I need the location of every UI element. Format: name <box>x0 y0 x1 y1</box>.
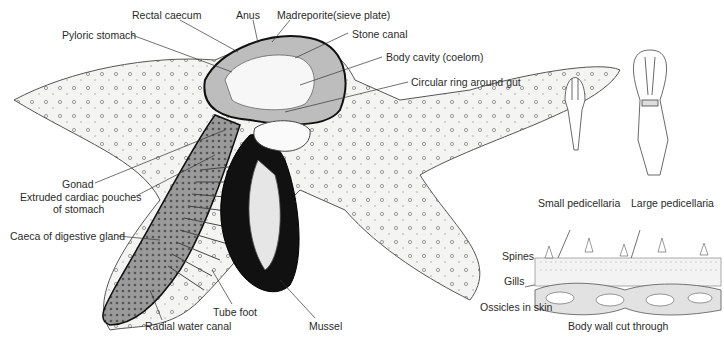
label-cardiac-pouches-line1: Extruded cardiac pouches <box>20 191 141 203</box>
label-gills: Gills <box>504 275 524 287</box>
label-large-pedicellaria: Large pedicellaria <box>631 197 714 209</box>
starfish-diagram <box>0 0 724 339</box>
label-anus: Anus <box>236 9 260 21</box>
label-caeca: Caeca of digestive gland <box>10 230 125 242</box>
label-pyloric-stomach: Pyloric stomach <box>62 29 136 41</box>
label-small-pedicellaria: Small pedicellaria <box>538 197 620 209</box>
small-pedicellaria <box>565 78 585 151</box>
label-madreporite: Madreporite(sieve plate) <box>277 9 390 21</box>
label-rectal-caecum: Rectal caecum <box>132 9 201 21</box>
label-stone-canal: Stone canal <box>352 28 407 40</box>
label-body-cavity: Body cavity (coelom) <box>386 51 483 63</box>
label-gonad: Gonad <box>62 178 94 190</box>
label-tube-foot: Tube foot <box>213 306 257 318</box>
label-cardiac-pouches-line2: of stomach <box>53 203 104 215</box>
large-pedicellaria <box>633 50 668 175</box>
label-body-wall: Body wall cut through <box>568 320 668 332</box>
body-wall-section <box>535 238 721 315</box>
label-mussel: Mussel <box>309 320 342 332</box>
label-ossicles: Ossicles in skin <box>480 301 552 313</box>
label-radial-water-canal: Radial water canal <box>145 320 231 332</box>
label-circular-ring: Circular ring around gut <box>411 76 521 88</box>
label-spines: Spines <box>502 250 534 262</box>
